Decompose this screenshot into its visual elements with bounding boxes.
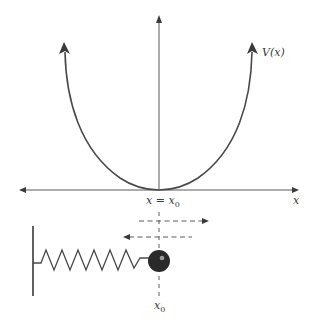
spring-equilibrium-label: x0 xyxy=(154,300,165,314)
arrow-left-icon xyxy=(123,234,130,240)
equilibrium-label-subscript: 0 xyxy=(175,200,180,209)
equilibrium-label: x = x0 xyxy=(146,195,180,209)
x-axis-label-text: x xyxy=(293,194,299,207)
spring-equilibrium-label-subscript: 0 xyxy=(160,305,165,314)
motion-arrow-right xyxy=(139,218,209,224)
x-axis-label: x xyxy=(293,195,299,206)
spring xyxy=(33,250,149,270)
motion-arrow-left xyxy=(123,234,192,240)
curve-label-text: V(x) xyxy=(262,46,285,59)
v-axis xyxy=(156,15,162,190)
curve-label: V(x) xyxy=(262,47,285,58)
x-axis-left-arrow-icon xyxy=(19,187,26,193)
arrow-right-icon xyxy=(202,218,209,224)
equilibrium-label-text: x = x xyxy=(146,194,175,207)
x-axis-right-arrow-icon xyxy=(292,187,299,193)
mass-ball xyxy=(148,250,170,272)
v-axis-arrow-icon xyxy=(156,15,162,23)
